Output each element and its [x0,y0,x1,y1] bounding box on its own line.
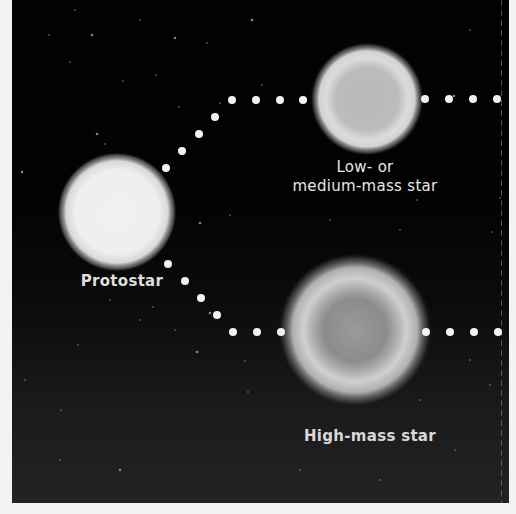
background-star [74,9,76,11]
path-dot [299,96,307,104]
background-star [454,449,456,451]
background-star [174,329,176,331]
background-star [60,409,62,411]
path-dot [195,130,203,138]
background-star [489,384,491,386]
high-mass-star-label: High-mass star [295,427,445,446]
background-star [155,74,157,76]
background-star [109,299,111,301]
background-star [419,399,421,401]
path-dot [178,147,186,155]
background-star [174,37,177,40]
background-star [77,344,79,346]
path-dot [181,277,189,285]
background-star [139,319,141,321]
background-star [178,106,180,108]
path-dot [422,328,430,336]
low-mass-star-label-line2: medium-mass star [285,177,445,196]
background-star [247,391,249,393]
background-star [219,102,221,104]
path-dot [162,164,170,172]
path-dot [446,328,454,336]
path-dot [469,95,477,103]
path-dot [228,96,236,104]
protostar-label: Protostar [72,272,172,291]
background-star [104,143,106,145]
path-dot [253,328,261,336]
background-star [96,133,99,136]
background-star [399,229,401,231]
background-star [196,351,199,354]
path-dot [229,328,237,336]
background-star [91,34,94,37]
background-star [329,219,331,221]
background-star [469,29,471,31]
background-star [122,80,124,82]
background-star [251,19,254,22]
low-mass-star-label: Low- or medium-mass star [285,158,445,196]
path-dot [276,96,284,104]
path-dot [494,328,502,336]
background-star [69,61,71,63]
background-star [453,95,456,98]
protostar-glow [57,152,177,272]
path-dot [470,328,478,336]
background-star [416,199,418,201]
path-dot [277,328,285,336]
path-dot [197,294,205,302]
background-star [229,214,231,216]
background-star [48,34,50,36]
high-mass-star-glow [277,252,433,408]
background-star [24,379,26,381]
low-mass-star-label-line1: Low- or [285,158,445,177]
background-star [491,231,493,233]
background-star [299,469,301,471]
background-star [379,479,381,481]
background-star [206,42,208,44]
path-dot [211,113,219,121]
path-dot [252,96,260,104]
path-dot [164,260,172,268]
background-star [261,84,263,86]
background-star [209,312,212,315]
background-star [199,222,202,225]
path-dot [421,95,429,103]
background-star [469,359,471,361]
background-star [152,306,154,308]
background-star [244,360,246,362]
background-star [499,197,501,199]
path-dot [445,95,453,103]
background-star [21,171,24,174]
path-dot [493,95,501,103]
background-star [119,469,122,472]
low-mass-star-glow [310,42,424,156]
path-dot [213,311,221,319]
background-star [59,459,61,461]
background-star [139,19,141,21]
